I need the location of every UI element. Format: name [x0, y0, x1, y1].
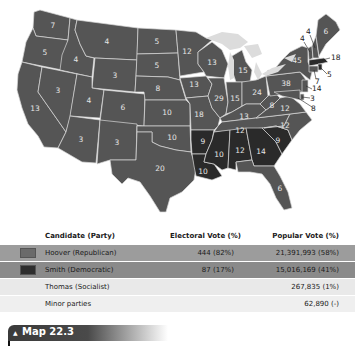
candidate-name: Minor parties: [45, 300, 91, 308]
svg-text:3: 3: [56, 86, 61, 95]
state-nj: [302, 80, 308, 92]
svg-text:5: 5: [43, 48, 48, 57]
svg-text:8: 8: [270, 101, 275, 110]
table-row-thomas: Thomas (Socialist) 267,835 (1%): [0, 279, 355, 295]
svg-text:3: 3: [310, 94, 315, 103]
svg-text:7: 7: [51, 21, 56, 30]
svg-text:3: 3: [113, 71, 118, 80]
table-header: Candidate (Party) Electoral Vote (%) Pop…: [0, 229, 355, 245]
svg-text:8: 8: [311, 104, 316, 113]
popular-vote: 21,391,993 (58%): [276, 249, 339, 257]
svg-text:3: 3: [115, 138, 120, 147]
caption-rule: [8, 341, 10, 346]
svg-text:6: 6: [121, 103, 126, 112]
svg-text:12: 12: [235, 126, 245, 135]
candidate-name: Smith (Democratic): [45, 266, 113, 274]
svg-text:10: 10: [167, 133, 177, 142]
svg-text:9: 9: [201, 137, 206, 146]
svg-text:5: 5: [155, 37, 160, 46]
results-table: Candidate (Party) Electoral Vote (%) Pop…: [0, 229, 355, 313]
svg-text:14: 14: [256, 147, 266, 156]
state-fl: [236, 160, 292, 210]
svg-text:38: 38: [281, 79, 291, 88]
table-row-hoover: Hoover (Republican) 444 (82%) 21,391,993…: [0, 245, 355, 261]
svg-text:8: 8: [156, 84, 161, 93]
svg-text:15: 15: [230, 94, 240, 103]
svg-text:29: 29: [214, 94, 224, 103]
svg-text:14: 14: [312, 84, 322, 93]
candidate-name: Thomas (Socialist): [45, 283, 110, 291]
svg-text:13: 13: [239, 112, 249, 121]
svg-text:6: 6: [324, 27, 329, 36]
svg-text:12: 12: [280, 104, 290, 113]
svg-text:13: 13: [207, 58, 217, 67]
svg-text:5: 5: [327, 70, 332, 79]
svg-text:9: 9: [276, 136, 281, 145]
svg-text:12: 12: [280, 121, 290, 130]
svg-text:45: 45: [292, 56, 302, 65]
candidate-name: Hoover (Republican): [45, 249, 117, 257]
svg-text:18: 18: [194, 110, 204, 119]
election-map: 7 5 13 4 3 4 3 4 3 6 3 5 5 8 10 10 20 12…: [0, 0, 355, 230]
svg-text:4: 4: [74, 55, 79, 64]
svg-text:13: 13: [189, 80, 199, 89]
svg-text:15: 15: [238, 66, 248, 75]
svg-text:6: 6: [278, 184, 283, 193]
republican-swatch: [20, 248, 36, 258]
electoral-vote: 87 (17%): [184, 266, 234, 274]
map-caption-tab: ▲ Map 22.3: [8, 325, 168, 341]
svg-text:20: 20: [155, 164, 165, 173]
table-row-minor-parties: Minor parties 62,890 (-): [0, 296, 355, 312]
header-popular-vote: Popular Vote (%): [272, 232, 339, 240]
svg-text:5: 5: [155, 61, 160, 70]
header-candidate: Candidate (Party): [45, 232, 115, 240]
svg-text:12: 12: [235, 146, 245, 155]
svg-text:4: 4: [300, 34, 305, 43]
popular-vote: 62,890 (-): [304, 300, 339, 308]
svg-text:18: 18: [331, 53, 341, 62]
triangle-icon: ▲: [13, 329, 18, 336]
svg-text:24: 24: [252, 88, 262, 97]
popular-vote: 15,016,169 (41%): [276, 266, 339, 274]
state-ct: [309, 66, 318, 72]
svg-text:13: 13: [30, 104, 40, 113]
svg-text:10: 10: [162, 108, 172, 117]
table-row-smith: Smith (Democratic) 87 (17%) 15,016,169 (…: [0, 262, 355, 278]
svg-text:10: 10: [214, 150, 224, 159]
svg-text:3: 3: [79, 135, 84, 144]
header-electoral-vote: Electoral Vote (%): [170, 232, 241, 240]
democratic-swatch: [20, 265, 36, 275]
svg-text:12: 12: [182, 47, 192, 56]
svg-text:4: 4: [87, 96, 92, 105]
svg-text:4: 4: [105, 37, 110, 46]
electoral-vote: 444 (82%): [184, 249, 234, 257]
map-caption-label: Map 22.3: [22, 326, 74, 337]
popular-vote: 267,835 (1%): [291, 283, 339, 291]
svg-text:4: 4: [306, 27, 311, 36]
svg-text:10: 10: [198, 167, 208, 176]
